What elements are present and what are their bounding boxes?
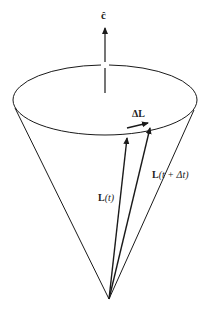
delta-L-label: ΔL	[132, 108, 145, 119]
vector-delta-L	[127, 123, 148, 128]
L-t-label: L(t)	[98, 192, 115, 204]
vector-L-t-plus-dt	[109, 128, 150, 299]
axis-label: ĉ	[101, 9, 106, 21]
L-t-plus-dt-label: L(t + Δt)	[152, 169, 189, 181]
cone-left-edge	[15, 108, 109, 299]
cone-right-edge	[109, 110, 194, 299]
vector-L-t	[109, 138, 127, 299]
precession-cone-diagram: ĉ ΔL L(t) L(t + Δt)	[0, 0, 208, 317]
